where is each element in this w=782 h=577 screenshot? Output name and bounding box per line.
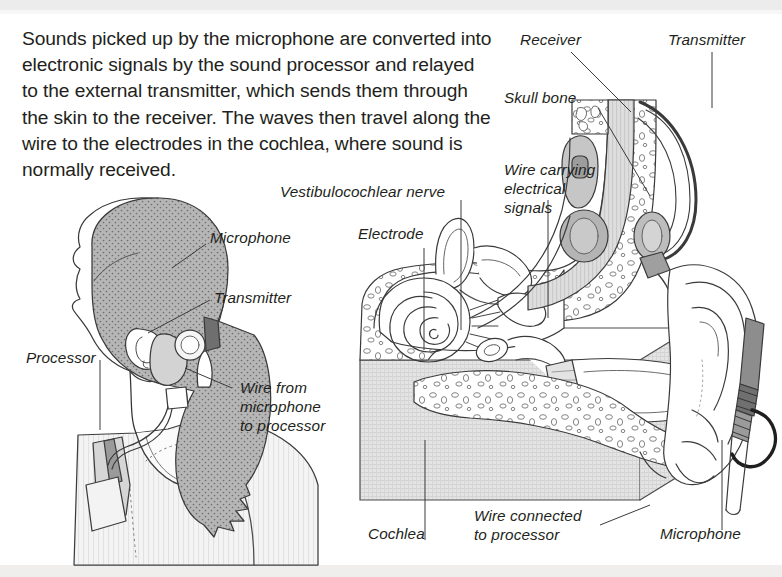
label-microphone-left: Microphone bbox=[210, 228, 291, 247]
label-wire-carrying-electrical-signals: Wire carrying electrical signals bbox=[504, 160, 595, 217]
scan-band-bottom bbox=[0, 565, 782, 577]
label-microphone-right: Microphone bbox=[660, 524, 741, 543]
label-wire-connected-to-processor: Wire connected to processor bbox=[474, 506, 582, 544]
page-canvas: Sounds picked up by the microphone are c… bbox=[0, 0, 782, 577]
label-wire-from-microphone: Wire from microphone to processor bbox=[240, 378, 325, 435]
label-electrode: Electrode bbox=[358, 224, 424, 243]
label-receiver: Receiver bbox=[520, 30, 581, 49]
label-skull-bone: Skull bone bbox=[504, 88, 576, 107]
label-vestibulocochlear-nerve: Vestibulocochlear nerve bbox=[280, 182, 445, 201]
left-illustration bbox=[18, 185, 348, 565]
scan-band-top bbox=[0, 0, 782, 10]
label-processor: Processor bbox=[26, 348, 96, 367]
label-transmitter-left: Transmitter bbox=[214, 288, 291, 307]
label-transmitter-right: Transmitter bbox=[668, 30, 745, 49]
label-cochlea: Cochlea bbox=[368, 524, 425, 543]
right-illustration bbox=[340, 60, 782, 520]
scan-band-top-soft bbox=[0, 10, 782, 14]
